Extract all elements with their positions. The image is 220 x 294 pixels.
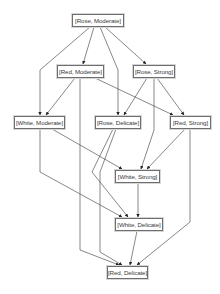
edge-rose-strong-to-white-strong: [141, 78, 154, 169]
edge-white-moderate-to-white-strong: [52, 129, 122, 169]
node-red-strong[interactable]: [Red, Strong]: [170, 116, 211, 129]
node-white-moderate[interactable]: [White, Moderate]: [14, 116, 65, 129]
edge-white-delicate-to-red-delicate: [130, 231, 137, 265]
edge-layer: [0, 0, 220, 294]
node-white-strong[interactable]: [White, Strong]: [115, 170, 160, 183]
edge-rose-strong-to-rose-delicate: [124, 78, 147, 115]
edge-red-moderate-to-red-delicate: [80, 78, 119, 265]
edge-white-moderate-to-white-delicate: [40, 129, 122, 217]
node-white-delicate[interactable]: [White, Delicate]: [115, 218, 163, 231]
node-rose-moderate[interactable]: [Rose, Moderate]: [72, 14, 124, 27]
node-rose-strong[interactable]: [Rose, Strong]: [133, 65, 175, 78]
node-red-moderate[interactable]: [Red, Moderate]: [57, 65, 104, 78]
edge-rose-moderate-to-rose-strong: [105, 27, 146, 64]
lattice-diagram: [Rose, Moderate][Red, Moderate][Rose, St…: [0, 0, 220, 294]
node-rose-delicate[interactable]: [Rose, Delicate]: [95, 116, 141, 129]
edge-red-strong-to-red-delicate: [137, 129, 190, 265]
edge-red-moderate-to-white-moderate: [46, 78, 75, 115]
edge-rose-moderate-to-red-moderate: [83, 27, 94, 64]
node-red-delicate[interactable]: [Red, Delicate]: [107, 266, 148, 279]
